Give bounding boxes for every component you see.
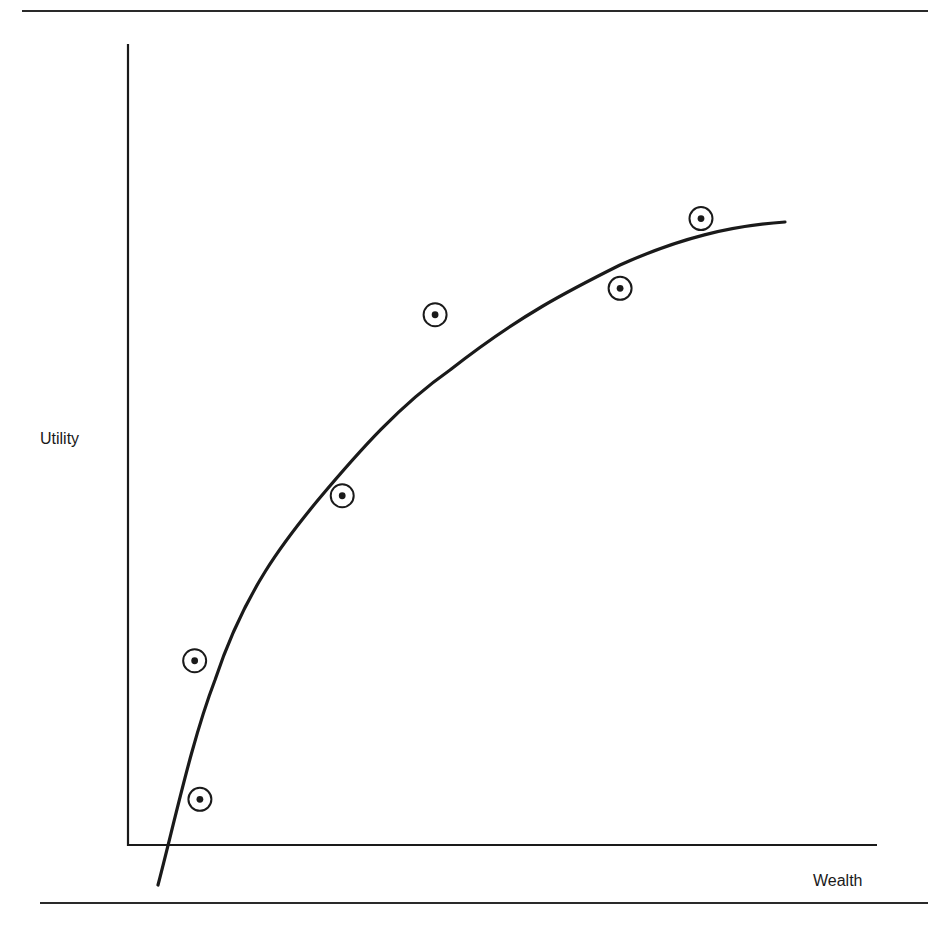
chart-plot [0,0,941,930]
data-point-marker [188,788,211,811]
data-point-marker [689,207,712,230]
data-point-marker [609,277,632,300]
data-points [183,207,712,811]
utility-curve [158,222,785,885]
data-point-marker [183,649,206,672]
data-point-marker [424,303,447,326]
data-point-marker [331,484,354,507]
y-axis-label: Utility [40,430,79,448]
x-axis-label: Wealth [813,872,863,890]
bottom-rule [40,902,928,904]
